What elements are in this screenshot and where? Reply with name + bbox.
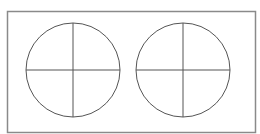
left-circle [26, 23, 120, 117]
diagram-canvas [0, 0, 260, 134]
right-circle [136, 23, 230, 117]
circles-group [26, 23, 230, 117]
frame-rectangle [8, 12, 256, 133]
